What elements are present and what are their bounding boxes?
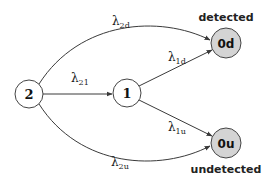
node-2: 2	[15, 80, 43, 108]
node-1-label: 1	[122, 86, 131, 101]
diagram-svg: λ2d λ21 λ2u λ1d λ1u 2 1 0d 0u detected u…	[0, 0, 275, 186]
rate-label-21: λ21	[71, 71, 89, 87]
node-0d-label: 0d	[218, 37, 235, 51]
state-diagram: λ2d λ21 λ2u λ1d λ1u 2 1 0d 0u detected u…	[0, 0, 275, 186]
rate-label-1u: λ1u	[168, 120, 186, 136]
rate-label-2d: λ2d	[112, 14, 130, 30]
rate-label-2u: λ2u	[111, 155, 129, 171]
node-0u-label: 0u	[218, 137, 235, 151]
node-0u: 0u	[211, 128, 241, 158]
rate-label-1d: λ1d	[168, 50, 186, 66]
node-1: 1	[113, 79, 141, 107]
node-2-label: 2	[24, 87, 33, 102]
caption-undetected: undetected	[191, 163, 262, 176]
node-0d: 0d	[211, 28, 241, 58]
edge-2-to-0d	[39, 26, 210, 84]
caption-detected: detected	[198, 11, 253, 24]
